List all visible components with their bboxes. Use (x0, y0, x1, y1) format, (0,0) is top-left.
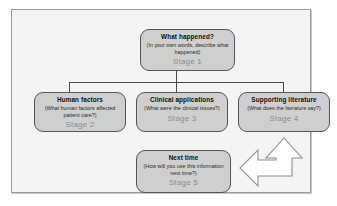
node-subtitle: (What human factors affected patient car… (38, 105, 122, 118)
node-title: Next time (140, 154, 227, 162)
node-stage-2[interactable]: Human factors (What human factors affect… (34, 92, 126, 132)
node-title: What happened? (144, 33, 231, 41)
diagram-frame: What happened? (In your own words, descr… (11, 9, 311, 193)
node-stage-label: Stage 3 (140, 114, 224, 124)
node-stage-3[interactable]: Clinical applications (What were the cli… (136, 92, 228, 132)
node-subtitle: (What were the clinical issues?) (140, 105, 224, 112)
node-title: Human factors (38, 96, 122, 104)
node-subtitle: (In your own words, describe what happen… (144, 42, 231, 55)
node-stage-label: Stage 4 (242, 114, 326, 124)
node-stage-5[interactable]: Next time (How will you use this informa… (136, 150, 231, 193)
node-stage-label: Stage 5 (140, 178, 227, 188)
connector-to-stage4 (283, 82, 284, 92)
node-stage-4[interactable]: Supporting literature (What does the lit… (238, 92, 330, 132)
connector-to-stage3 (176, 82, 177, 92)
node-stage-label: Stage 2 (38, 120, 122, 130)
node-title: Supporting literature (242, 96, 326, 104)
node-subtitle: (What does the literature say?) (242, 105, 326, 112)
connector-to-stage2 (69, 82, 70, 92)
diagram-canvas: What happened? (In your own words, descr… (0, 0, 337, 206)
node-stage-1[interactable]: What happened? (In your own words, descr… (140, 29, 235, 71)
node-subtitle: (How will you use this information next … (140, 163, 227, 176)
node-title: Clinical applications (140, 96, 224, 104)
bent-double-headed-arrow-icon (238, 136, 310, 196)
node-stage-label: Stage 1 (144, 57, 231, 67)
